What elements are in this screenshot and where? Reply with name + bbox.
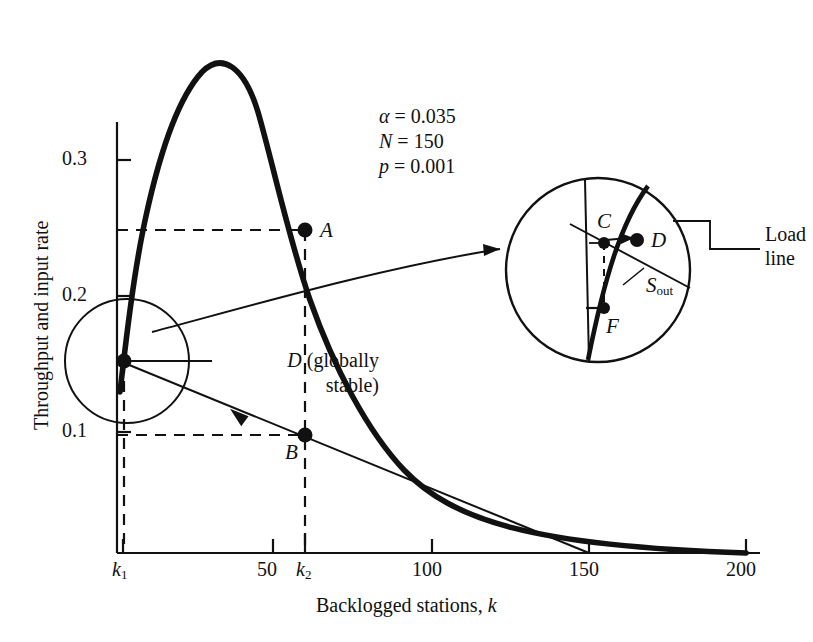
param-alpha-eq: = [395, 105, 406, 127]
param-alpha-value: 0.035 [411, 105, 456, 127]
param-N-value: 150 [414, 130, 444, 152]
d-callout-symbol: D [287, 349, 301, 371]
param-N-symbol: N [379, 130, 392, 152]
throughput-load-line-figure [0, 0, 813, 642]
x-tick-label-200: 200 [726, 558, 756, 581]
k2-base: k [296, 558, 305, 580]
y-tick-label-0.1: 0.1 [62, 419, 87, 442]
d-stable-callout: D (globally stable) [219, 348, 379, 398]
inset-connector [152, 244, 500, 332]
y-axis-title: Throughput and input rate [30, 221, 53, 430]
param-p: p = 0.001 [379, 154, 456, 179]
x-tick-label-100: 100 [412, 558, 442, 581]
inset-point-label-F: F [606, 314, 619, 339]
inset-point-F [598, 302, 610, 314]
inset-vertical-axis [585, 180, 589, 362]
y-tick-label-0.3: 0.3 [62, 147, 87, 170]
inset-point-label-C: C [597, 209, 611, 234]
point-A [298, 223, 313, 238]
param-alpha: α = 0.035 [379, 104, 456, 129]
x-axis-title: Backlogged stations, k [316, 594, 497, 617]
inset-circle [506, 178, 690, 362]
parameter-annotations: α = 0.035 N = 150 p = 0.001 [379, 104, 456, 179]
k2-subscript: 2 [305, 567, 312, 582]
sout-base: S [646, 273, 657, 297]
x-axis-title-variable: k [488, 594, 497, 616]
inset-sout-leader [623, 268, 644, 285]
inset-connector-arrowhead [483, 244, 500, 256]
y-tick-label-0.2: 0.2 [62, 283, 87, 306]
d-callout-line-2: stable) [219, 373, 379, 398]
d-callout-line-1: D (globally [219, 348, 379, 373]
param-p-symbol: p [379, 155, 389, 177]
inset-point-D [630, 233, 644, 247]
param-N-eq: = [397, 130, 408, 152]
d-callout-text-1: (globally [302, 349, 379, 371]
load-line-callout: Load line [765, 222, 806, 270]
inset-detail [506, 178, 760, 362]
axes [117, 122, 760, 553]
point-label-A: A [320, 218, 333, 243]
param-p-value: 0.001 [410, 155, 455, 177]
load-line-label-1: Load [765, 222, 806, 246]
load-line-label-2: line [765, 246, 806, 270]
inset-curve-label-sout: Sout [646, 273, 673, 299]
x-tick-label-k2: k2 [296, 558, 311, 583]
param-alpha-symbol: α [379, 105, 390, 127]
inset-point-label-D: D [651, 228, 666, 253]
x-axis-title-text: Backlogged stations, [316, 594, 483, 616]
k1-subscript: 1 [121, 567, 128, 582]
point-label-B: B [285, 440, 298, 465]
point-B [298, 428, 313, 443]
sout-subscript: out [657, 283, 674, 298]
k1-base: k [112, 558, 121, 580]
x-tick-label-50: 50 [257, 558, 277, 581]
x-tick-label-150: 150 [569, 558, 599, 581]
param-p-eq: = [394, 155, 405, 177]
inset-point-C [598, 237, 610, 249]
param-N: N = 150 [379, 129, 456, 154]
inset-connector-curve [152, 249, 500, 332]
x-tick-label-k1: k1 [112, 558, 127, 583]
marked-points [117, 223, 313, 443]
